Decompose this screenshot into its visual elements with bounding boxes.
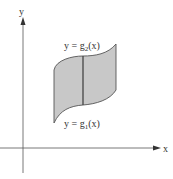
y-axis-arrow-icon (21, 17, 26, 25)
region-diagram: y x y = g2(x) y = g1(x) (0, 0, 173, 179)
upper-curve-label: y = g2(x) (64, 40, 100, 53)
x-axis-label: x (163, 143, 168, 154)
y-axis-label: y (19, 6, 24, 17)
x-axis-arrow-icon (153, 146, 161, 151)
shaded-region (54, 44, 116, 123)
diagram-canvas: y x y = g2(x) y = g1(x) (0, 0, 173, 179)
lower-curve-label: y = g1(x) (64, 118, 100, 131)
